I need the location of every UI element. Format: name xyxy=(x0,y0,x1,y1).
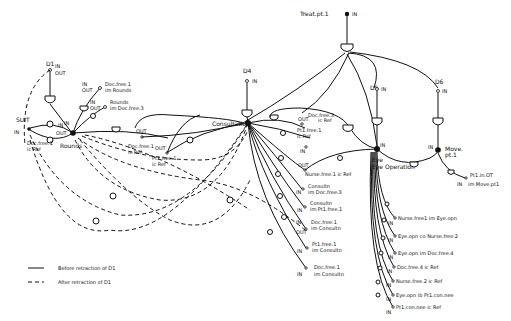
svg-text:IN: IN xyxy=(457,181,462,187)
svg-text:Eye.opn ib Pt1.con.nee: Eye.opn ib Pt1.con.nee xyxy=(396,292,454,299)
svg-text:im Consultn: im Consultn xyxy=(314,271,344,277)
d5-gate-icon xyxy=(372,118,382,125)
svg-text:IN: IN xyxy=(297,248,302,254)
svg-text:IN: IN xyxy=(442,88,447,94)
legend-solid-label: Before retraction of D1 xyxy=(58,265,115,271)
svg-text:IN: IN xyxy=(300,148,305,154)
svg-text:Doc.free.4 ic Ref: Doc.free.4 ic Ref xyxy=(397,264,439,270)
d1-gate-icon xyxy=(45,96,55,103)
network-diagram: Treat.pt.1 IN D1 IN OUT Rounds IN OUT IN… xyxy=(0,0,511,321)
resource-d5: D5 IN xyxy=(370,84,386,148)
d1-label: D1 xyxy=(46,60,55,67)
gate-icon xyxy=(270,115,278,120)
svg-text:IN: IN xyxy=(64,120,69,126)
svg-text:IN: IN xyxy=(252,78,257,84)
d1-in: IN xyxy=(55,63,60,69)
svg-text:IN: IN xyxy=(428,144,433,150)
gate-icon xyxy=(80,106,88,111)
svg-text:D4: D4 xyxy=(243,67,252,74)
svg-text:OUT: OUT xyxy=(90,105,102,111)
svg-text:IN: IN xyxy=(296,189,301,195)
svg-text:IN: IN xyxy=(297,271,302,277)
svg-text:D6: D6 xyxy=(435,78,444,85)
svg-text:IN: IN xyxy=(388,237,393,243)
treat-node: Treat.pt.1 IN xyxy=(243,10,438,146)
gate-icon xyxy=(410,162,418,167)
legend: Before retraction of D1 After retraction… xyxy=(28,265,115,285)
svg-text:IN: IN xyxy=(387,268,392,274)
svg-text:Nurse.free.1 ic Ref: Nurse.free.1 ic Ref xyxy=(305,171,352,177)
svg-text:im Doc.free.3: im Doc.free.3 xyxy=(308,189,342,195)
svg-text:Nurse.free1 im Eye.opn: Nurse.free1 im Eye.opn xyxy=(398,215,457,222)
rounds-activity: Rounds IN OUT IN OUT Doc.free.1 im Round… xyxy=(14,81,243,155)
svg-text:im Move.pt1: im Move.pt1 xyxy=(468,181,499,188)
dashed-paths xyxy=(30,123,305,231)
svg-text:Pt1.con.nee ic Ref: Pt1.con.nee ic Ref xyxy=(396,304,441,310)
svg-text:im Consultn: im Consultn xyxy=(311,225,341,231)
svg-text:OUT: OUT xyxy=(136,128,148,134)
svg-text:ic Ref: ic Ref xyxy=(297,133,311,139)
treat-gate-icon xyxy=(341,44,353,52)
rounds-out: OUT xyxy=(56,130,68,136)
resource-d4: D4 IN xyxy=(242,67,257,122)
svg-text:im Doc.free.3: im Doc.free.3 xyxy=(110,105,144,111)
treat-label: Treat.pt.1 xyxy=(299,10,329,18)
svg-text:IN: IN xyxy=(386,282,391,288)
svg-text:IN: IN xyxy=(380,142,385,148)
svg-text:IN: IN xyxy=(381,86,386,92)
svg-text:OUT: OUT xyxy=(298,162,310,168)
treat-port: IN xyxy=(352,11,357,17)
consultation-activity: Consultation OUT Pt1.free.1 ic Ref OUT D… xyxy=(152,108,352,277)
svg-text:ic Ref: ic Ref xyxy=(27,146,41,152)
svg-text:Eye.opn im Doc.free.4: Eye.opn im Doc.free.4 xyxy=(398,250,454,257)
svg-text:OUT: OUT xyxy=(82,87,94,93)
svg-text:IN: IN xyxy=(386,309,391,315)
svg-text:IN: IN xyxy=(297,207,302,213)
svg-text:pt.1: pt.1 xyxy=(445,151,457,159)
svg-text:Eye.opn co Nurse.free.2: Eye.opn co Nurse.free.2 xyxy=(398,233,458,240)
legend-dashed-label: After retraction of D1 xyxy=(58,279,111,285)
suit-label: SUIT xyxy=(16,116,30,123)
move-activity: IN Move. pt.1 Pt1.in.OT IN im Move.pt1 xyxy=(428,144,499,188)
svg-text:im Pt1.free.1: im Pt1.free.1 xyxy=(310,206,342,212)
svg-text:ic Ref: ic Ref xyxy=(152,161,166,167)
svg-text:OUT: OUT xyxy=(155,145,167,151)
svg-text:Doc.free.1: Doc.free.1 xyxy=(314,264,340,270)
svg-text:Pt1.in.OT: Pt1.in.OT xyxy=(470,172,494,178)
gate-icon xyxy=(112,127,120,132)
svg-text:ic Ref: ic Ref xyxy=(318,117,332,123)
gate-icon xyxy=(343,125,353,132)
resource-d6: D6 IN xyxy=(433,78,447,149)
d6-gate-icon xyxy=(433,118,443,125)
svg-text:IN: IN xyxy=(386,296,391,302)
svg-text:IN: IN xyxy=(14,129,19,135)
svg-text:IN: IN xyxy=(388,220,393,226)
d1-out: OUT xyxy=(55,70,67,76)
svg-text:Nurse.free.2 ic Ref: Nurse.free.2 ic Ref xyxy=(396,278,443,284)
svg-text:im Consultn: im Consultn xyxy=(312,247,342,253)
svg-text:IN: IN xyxy=(388,254,393,260)
d4-gate-icon xyxy=(242,110,252,117)
gate-icon xyxy=(448,170,454,175)
svg-text:im Rounds: im Rounds xyxy=(105,87,132,93)
